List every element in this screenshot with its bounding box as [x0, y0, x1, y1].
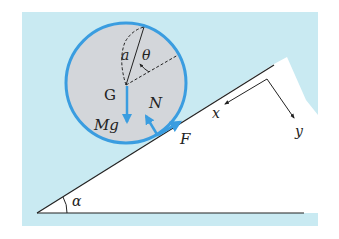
weight-label: Mg	[93, 116, 119, 134]
friction-label: F	[179, 130, 191, 148]
x-axis-label: x	[212, 105, 220, 121]
alpha-label: α	[72, 193, 82, 209]
incline-cylinder-diagram: α a θ G Mg N F x y	[0, 0, 339, 239]
normal-force-label: N	[148, 94, 163, 112]
theta-label: θ	[142, 47, 151, 63]
y-axis-label: y	[294, 123, 304, 139]
center-label: G	[104, 86, 116, 104]
radius-label: a	[121, 47, 129, 63]
